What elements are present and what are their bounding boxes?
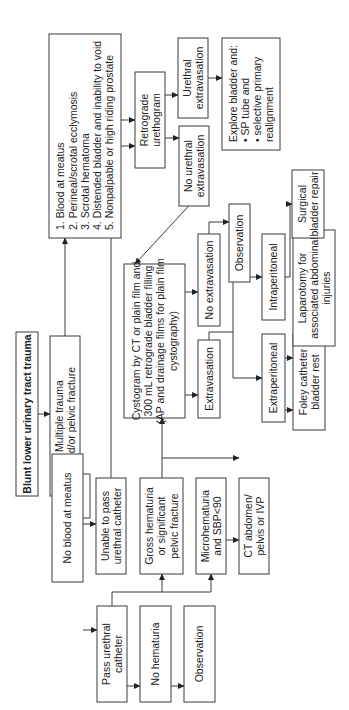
node-no-extrav: No extravasation (198, 234, 220, 326)
node-signs: 1. Blood at meatus2. Perineal/scrotal ec… (49, 34, 121, 238)
node-text-line: bladder rest (309, 354, 321, 410)
node-text-line: No hematuria (149, 622, 161, 685)
node-text-line: and/or pelvic fracture (65, 367, 77, 465)
node-text-line: bladder repair (308, 171, 320, 236)
node-obs-bottom: Observation (184, 606, 215, 702)
node-text-line: 5. Nonpalpable or high riding prostate (103, 55, 115, 230)
node-text-line: Cystogram by CT or plain film and (130, 262, 142, 421)
node-text-line: pelvis or IVP (254, 497, 266, 556)
node-text-line: associated abdominal (308, 237, 320, 339)
node-text-line: Unable to pass (99, 491, 111, 561)
node-text-line: 1. Blood at meatus (54, 142, 66, 230)
node-no-blood: No blood at meatus (52, 454, 83, 582)
node-text-line: extravasation (194, 135, 206, 198)
node-text-line: No urethral (182, 140, 194, 192)
node-text-line: 3. Scrotal hematoma (79, 133, 91, 230)
node-text-line: (AP and drainage films for plain film (154, 258, 166, 424)
node-extrav: Extravasation (198, 340, 220, 418)
node-text-line: CT abdomen/ (242, 494, 254, 558)
node-text-line: • selective primary (251, 56, 263, 142)
node-text-line: 4. Distended bladder and inability to vo… (91, 41, 103, 230)
node-intraperitoneal: Intraperitoneal (262, 234, 285, 320)
node-text-line: realignment (263, 87, 275, 142)
node-pass-cath: Pass urethralcatheter (97, 606, 127, 702)
flowchart-svg: Blunt lower urinary tract traumaMultiple… (0, 0, 349, 710)
node-text-line: cystography) (167, 311, 179, 371)
node-text-line: Microhematuria (199, 490, 211, 563)
node-text-line: Extravasation (203, 347, 215, 411)
connector-branch-to-intraperi (233, 277, 262, 332)
node-no-urethral-extrav: No urethralextravasation (179, 126, 209, 206)
node-text-line: Blunt lower urinary tract trauma (21, 334, 33, 493)
node-text-line: No extravasation (203, 240, 215, 319)
connector-intraperi-to-surg (285, 204, 292, 277)
node-text-line: No blood at meatus (61, 472, 73, 563)
flowchart: Blunt lower urinary tract traumaMultiple… (0, 0, 349, 710)
node-text-line: extravasation (193, 47, 205, 110)
node-text-line: urethogram (150, 93, 162, 147)
node-laparotomy: Laparotomy forassociated abdominalinjuri… (293, 230, 335, 346)
node-text-line: Foley catheter (297, 348, 309, 415)
node-text-line: 300 mL retrograde bladder filling (142, 265, 154, 416)
node-foley: Foley catheterbladder rest (293, 334, 325, 430)
node-text-line: Laparotomy for (296, 252, 308, 323)
node-text-line: 2. Perineal/scrotal ecclymosis (67, 92, 79, 230)
node-text-line: Surgical (296, 185, 308, 223)
node-surgical: Surgicalbladder repair (292, 170, 324, 238)
connector-branch-to-extraperi (233, 332, 262, 378)
node-title: Blunt lower urinary tract trauma (16, 332, 38, 496)
node-cystogram: Cystogram by CT or plain film and300 mL … (124, 258, 185, 424)
node-text-line: Gross hematuria (143, 487, 155, 565)
node-extraperitoneal: Extraperitoneal (262, 334, 285, 422)
node-text-line: urethral catheter (111, 487, 123, 564)
node-text-line: Urethral (181, 59, 193, 96)
node-text-line: Pass urethral (100, 623, 112, 685)
node-text-line: catheter (112, 635, 124, 673)
node-ct-abd: CT abdomen/pelvis or IVP (239, 478, 269, 574)
node-gross-hem: Gross hematuriaor significantpelvic frac… (140, 478, 183, 574)
node-text-line: pelvic fracture (168, 493, 180, 559)
node-text-line: Extraperitoneal (267, 343, 279, 414)
node-unable-pass: Unable to passurethral catheter (96, 478, 126, 574)
node-text-line: Explore bladder and: (227, 45, 239, 142)
node-no-hem: No hematuria (140, 606, 171, 702)
node-text-line: Observation (233, 215, 245, 272)
node-text-line: Intraperitoneal (267, 243, 279, 310)
connector-pass-branch (112, 592, 211, 606)
node-urethral-extrav: Urethralextravasation (178, 38, 208, 118)
connector-extrav-branch (209, 332, 233, 340)
node-text-line: injuries (320, 271, 332, 304)
node-text-line: • SP tube and (239, 78, 251, 142)
node-explore: Explore bladder and:• SP tube and• selec… (222, 38, 280, 150)
node-text-line: or significant (155, 496, 167, 555)
connector-noextrav-to-obs (209, 222, 229, 234)
node-micro-hem: Microhematuriaand SBP<90 (196, 478, 226, 574)
nodes: Blunt lower urinary tract traumaMultiple… (16, 34, 335, 702)
node-text-line: Multiple trauma (53, 380, 65, 452)
node-obs-top: Observation (229, 204, 250, 282)
node-retrograde: Retrogradeurethogram (135, 72, 165, 168)
node-text-line: and SBP<90 (211, 496, 223, 555)
node-text-line: Retrograde (138, 94, 150, 147)
node-text-line: Observation (193, 626, 205, 683)
